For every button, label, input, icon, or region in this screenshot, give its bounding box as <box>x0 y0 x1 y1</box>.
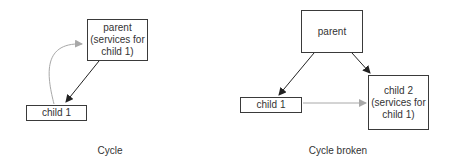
node-parent-broken: parent <box>301 10 363 53</box>
edge-child1-to-parent <box>49 44 82 104</box>
node-label: parent <box>318 26 346 38</box>
node-label: child 1 <box>257 99 286 111</box>
node-child1-cycle: child 1 <box>26 105 87 121</box>
edge-parent-to-child1-broken <box>279 53 314 95</box>
node-child1-broken: child 1 <box>240 97 302 113</box>
node-label: parent (services for child 1) <box>90 22 144 58</box>
node-label: child 1 <box>42 107 71 119</box>
caption-cycle: Cycle <box>50 145 170 156</box>
caption-cycle-broken: Cycle broken <box>278 145 398 156</box>
edge-parent-to-child2 <box>352 53 370 73</box>
node-parent-cycle: parent (services for child 1) <box>87 19 148 61</box>
node-label: child 2 (services for child 1) <box>371 85 425 121</box>
node-child2-broken: child 2 (services for child 1) <box>368 75 429 130</box>
edge-parent-to-child1 <box>66 61 99 102</box>
